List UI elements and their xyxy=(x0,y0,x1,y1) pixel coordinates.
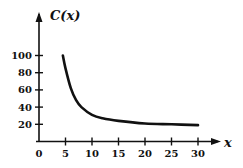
x-axis-arrow-icon xyxy=(211,138,221,145)
x-tick-label: 0 xyxy=(36,148,43,159)
y-axis-arrow-icon xyxy=(36,12,43,22)
cost-curve-chart: 05101520253020406080100 C(x) x xyxy=(0,0,243,168)
x-tick-label: 5 xyxy=(62,148,69,159)
x-tick-label: 25 xyxy=(165,148,179,159)
x-tick-label: 20 xyxy=(138,148,152,159)
x-axis-label: x xyxy=(223,135,232,150)
y-tick-label: 80 xyxy=(18,67,32,78)
y-tick-label: 20 xyxy=(18,119,32,130)
x-tick-label: 15 xyxy=(112,148,126,159)
chart-root: 05101520253020406080100 C(x) x xyxy=(0,0,243,168)
x-tick-label: 10 xyxy=(85,148,99,159)
y-axis-label: C(x) xyxy=(50,8,80,23)
x-tick-label: 30 xyxy=(191,148,205,159)
y-tick-label: 40 xyxy=(18,102,32,113)
y-tick-label: 100 xyxy=(11,50,32,61)
cost-curve xyxy=(63,56,198,126)
y-tick-label: 60 xyxy=(18,84,32,95)
